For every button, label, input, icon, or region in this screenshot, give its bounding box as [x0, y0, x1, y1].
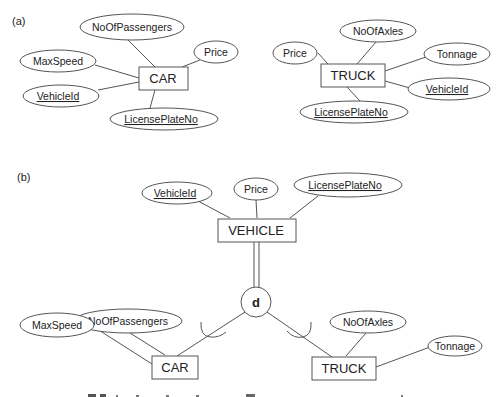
truck-b-entity: TRUCK: [312, 357, 376, 380]
car-a-entity: CAR: [139, 67, 188, 90]
svg-text:Price: Price: [283, 47, 307, 59]
svg-text:NoOfPassengers: NoOfPassengers: [88, 315, 168, 327]
svg-text:MaxSpeed: MaxSpeed: [32, 319, 82, 331]
svg-text:VehicleId: VehicleId: [37, 90, 80, 102]
svg-text:VehicleId: VehicleId: [154, 187, 197, 199]
svg-text:NoOfAxles: NoOfAxles: [353, 25, 403, 37]
specialization-lines: [177, 312, 332, 357]
car-a-attr-price: Price: [194, 41, 238, 63]
disjoint-symbol: d: [252, 295, 260, 310]
vehicle-attr-license-plate-no-key: LicensePlateNo: [294, 173, 402, 197]
svg-text:Price: Price: [204, 46, 228, 58]
subset-symbol-car: [201, 322, 226, 337]
car-a-attr-vehicle-id-key: VehicleId: [23, 85, 99, 107]
car-a-attr-license-plate-no-key: LicensePlateNo: [110, 108, 218, 130]
disjoint-specialization-circle: d: [241, 287, 271, 317]
svg-text:LicensePlateNo: LicensePlateNo: [314, 106, 388, 118]
car-a-attr-max-speed: MaxSpeed: [20, 50, 96, 72]
car-a-attr-no-of-passengers: NoOfPassengers: [80, 14, 184, 40]
vehicle-attr-price: Price: [234, 178, 278, 200]
svg-text:Price: Price: [244, 183, 268, 195]
svg-text:CAR: CAR: [149, 71, 176, 86]
svg-text:Tonnage: Tonnage: [437, 48, 477, 60]
car-b-attr-max-speed: MaxSpeed: [20, 313, 94, 337]
svg-text:LicensePlateNo: LicensePlateNo: [308, 179, 382, 191]
truck-a-attr-price: Price: [273, 42, 317, 64]
truck-b-attr-tonnage: Tonnage: [428, 336, 482, 356]
part-b-label: (b): [17, 171, 30, 183]
truck-a-attr-license-plate-no-key: LicensePlateNo: [300, 101, 408, 123]
er-diagram: (a) NoOfPassengers MaxSpeed Price Vehicl…: [0, 0, 504, 397]
part-a-label: (a): [12, 15, 25, 27]
total-participation-double-line: [254, 242, 259, 288]
car-b-entity: CAR: [152, 356, 198, 379]
svg-text:NoOfPassengers: NoOfPassengers: [92, 21, 172, 33]
svg-text:LicensePlateNo: LicensePlateNo: [124, 113, 198, 125]
vehicle-attr-vehicle-id-key: VehicleId: [142, 182, 212, 204]
svg-text:VehicleId: VehicleId: [426, 83, 469, 95]
subset-symbol-truck: [287, 322, 311, 337]
svg-text:MaxSpeed: MaxSpeed: [33, 55, 83, 67]
svg-text:CAR: CAR: [161, 360, 188, 375]
svg-text:Tonnage: Tonnage: [435, 340, 475, 352]
truck-b-attr-no-of-axles: NoOfAxles: [330, 311, 406, 333]
truck-a-entity: TRUCK: [321, 64, 385, 87]
truck-a-attr-vehicle-id-key: VehicleId: [408, 78, 490, 100]
truck-a-attr-no-of-axles: NoOfAxles: [340, 20, 416, 42]
svg-text:NoOfAxles: NoOfAxles: [343, 316, 393, 328]
vehicle-entity: VEHICLE: [218, 219, 296, 242]
svg-text:TRUCK: TRUCK: [322, 361, 367, 376]
svg-text:TRUCK: TRUCK: [331, 68, 376, 83]
truck-a-attr-tonnage: Tonnage: [424, 43, 490, 65]
svg-text:VEHICLE: VEHICLE: [228, 223, 284, 238]
